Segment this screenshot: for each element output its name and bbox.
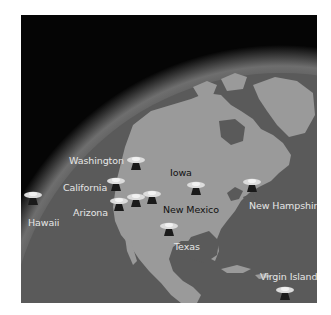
globe-map bbox=[21, 15, 317, 303]
map-frame: Washington California Arizona New Mexico… bbox=[21, 15, 317, 303]
satellite-dish-icon bbox=[275, 284, 295, 302]
site-label-california: California bbox=[63, 183, 107, 193]
satellite-dish-icon bbox=[23, 189, 43, 207]
site-label-texas: Texas bbox=[174, 242, 200, 252]
site-label-iowa: Iowa bbox=[170, 168, 192, 178]
satellite-dish-icon bbox=[126, 154, 146, 172]
satellite-dish-icon bbox=[242, 176, 262, 194]
satellite-dish-icon bbox=[159, 220, 179, 238]
site-label-washington: Washington bbox=[69, 156, 124, 166]
site-label-hawaii: Hawaii bbox=[28, 218, 59, 228]
site-label-arizona: Arizona bbox=[73, 208, 108, 218]
satellite-dish-icon bbox=[106, 175, 126, 193]
site-label-new-hampshire: New Hampshire bbox=[249, 201, 317, 211]
site-label-virgin-islands: Virgin Islands bbox=[260, 272, 317, 282]
site-label-new-mexico: New Mexico bbox=[163, 205, 219, 215]
satellite-dish-icon bbox=[142, 188, 162, 206]
satellite-dish-icon bbox=[186, 179, 206, 197]
